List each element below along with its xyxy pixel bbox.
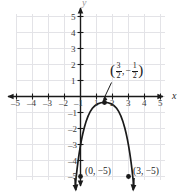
y-tick-label-1: 1 [71, 77, 76, 86]
x-axis-label: x [172, 91, 176, 101]
x-tick-label--4: –4 [27, 99, 36, 108]
vertex-fraction-y-denominator: 2 [132, 72, 138, 80]
vertex-annotation-label: ( 3 2 , − 1 2 ) [110, 62, 143, 81]
vertex-fraction-x: 3 2 [116, 62, 122, 81]
x-tick-label-4: 4 [142, 99, 147, 108]
vertex-fraction-y-numerator: 1 [132, 62, 138, 70]
y-tick-label--2: –2 [68, 125, 77, 134]
y-tick-label--5: –5 [68, 172, 77, 181]
vertex-fraction-x-denominator: 2 [116, 72, 122, 80]
x-tick-label--2: –2 [59, 99, 68, 108]
vertex-open-paren: ( [110, 63, 115, 78]
vertex-close-paren: ) [138, 63, 143, 78]
x-tick-label-1: 1 [94, 99, 99, 108]
y-axis-label: y [82, 0, 86, 8]
y-tick-label-2: 2 [71, 61, 76, 70]
y-tick-label--4: –4 [68, 157, 77, 166]
point-3-minus5 [126, 174, 131, 179]
x-tick-label--1: –1 [74, 99, 83, 108]
y-tick-label-4: 4 [71, 29, 76, 38]
x-tick-label-2: 2 [110, 99, 115, 108]
y-tick-label--3: –3 [68, 141, 77, 150]
x-tick-label-3: 3 [126, 99, 131, 108]
y-tick-label--1: –1 [68, 109, 77, 118]
point-vertex [102, 100, 107, 105]
point-label-3-minus5: (3, −5) [133, 167, 159, 177]
y-tick-label-3: 3 [71, 45, 76, 54]
vertex-comma: , [122, 67, 124, 77]
x-tick-label--5: –5 [11, 99, 20, 108]
point-label-0-minus5: (0, −5) [85, 167, 111, 177]
y-tick-label-5: 5 [71, 13, 76, 22]
vertex-fraction-y: 1 2 [132, 62, 138, 81]
graph-figure: –5 –4 –3 –2 –1 1 2 3 4 5 5 4 3 2 1 –1 –2… [0, 0, 189, 195]
x-tick-label--3: –3 [43, 99, 52, 108]
point-0-minus5 [78, 174, 83, 179]
vertex-minus-sign: − [125, 67, 130, 77]
x-tick-label-5: 5 [158, 99, 163, 108]
axis-tick-marks [17, 17, 161, 161]
vertex-fraction-x-numerator: 3 [116, 62, 122, 70]
